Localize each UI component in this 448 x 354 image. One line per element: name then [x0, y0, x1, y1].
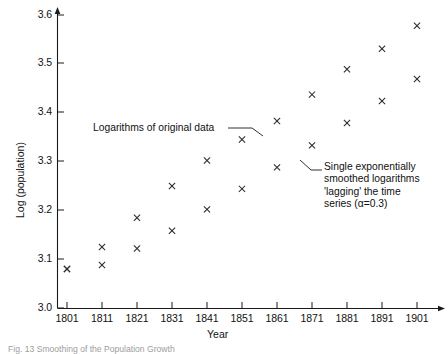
data-point-x-marker [239, 136, 245, 142]
annotation-smoothed-line-4: series (α=0.3) [324, 198, 442, 210]
data-point-x-marker [169, 183, 175, 189]
data-point-x-marker [169, 228, 175, 234]
data-point-x-marker [64, 266, 70, 272]
data-point-x-marker [239, 186, 245, 192]
annotation-smoothed-line-3: 'lagging' the time [324, 186, 442, 198]
xtick-label-1811: 1811 [82, 312, 122, 324]
xtick-label-1861: 1861 [257, 312, 297, 324]
data-point-x-marker [414, 23, 420, 29]
xtick-label-1901: 1901 [397, 312, 437, 324]
xtick-label-1871: 1871 [292, 312, 332, 324]
xtick-label-1851: 1851 [222, 312, 262, 324]
ytick-label-3-3: 3.3 [24, 154, 52, 166]
annotation-smoothed-data: Single exponentially smoothed logarithms… [324, 161, 442, 211]
xtick-label-1801: 1801 [47, 312, 87, 324]
data-point-x-marker [99, 262, 105, 268]
data-point-group [64, 23, 420, 272]
data-point-x-marker [309, 91, 315, 97]
data-point-x-marker [309, 142, 315, 148]
data-point-x-marker [274, 118, 280, 124]
annotation-smoothed-line-1: Single exponentially [324, 161, 442, 173]
xtick-label-1881: 1881 [327, 312, 367, 324]
data-point-x-marker [99, 244, 105, 250]
ytick-label-3-6: 3.6 [24, 8, 52, 20]
annotation-original-data: Logarithms of original data [93, 122, 214, 134]
annotation-leaders [228, 128, 322, 170]
x-axis [58, 302, 446, 311]
data-point-x-marker [344, 66, 350, 72]
x-axis-title: Year [207, 328, 228, 340]
y-axis-title: Log (population) [14, 142, 26, 218]
ytick-label-3-2: 3.2 [24, 203, 52, 215]
y-axis-arrow [55, 7, 61, 14]
data-point-x-marker [274, 164, 280, 170]
data-point-x-marker [379, 98, 385, 104]
figure-caption: Fig. 13 Smoothing of the Population Grow… [8, 344, 448, 354]
data-point-x-marker [379, 46, 385, 52]
xtick-label-1831: 1831 [152, 312, 192, 324]
xtick-label-1821: 1821 [117, 312, 157, 324]
xtick-label-1841: 1841 [187, 312, 227, 324]
x-axis-arrow [438, 306, 445, 312]
data-point-x-marker [414, 76, 420, 82]
y-axis [55, 7, 64, 308]
annotation-smoothed-line-2: smoothed logarithms [324, 173, 442, 185]
data-point-x-marker [204, 206, 210, 212]
data-point-x-marker [204, 157, 210, 163]
ytick-label-3-4: 3.4 [24, 105, 52, 117]
xtick-label-1891: 1891 [362, 312, 402, 324]
data-point-x-marker [134, 245, 140, 251]
data-point-x-marker [134, 215, 140, 221]
ytick-label-3-5: 3.5 [24, 56, 52, 68]
ytick-label-3-1: 3.1 [24, 252, 52, 264]
data-point-x-marker [344, 120, 350, 126]
